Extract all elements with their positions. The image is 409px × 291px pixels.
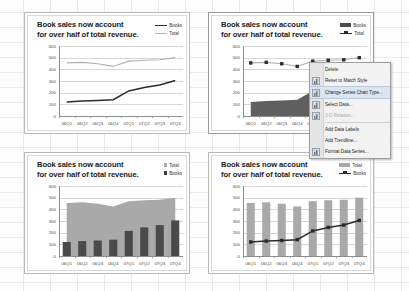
series-column-total[interactable] — [309, 201, 317, 256]
x-axis-tick-label: 07Q4 — [167, 261, 183, 266]
chart-top-right-legend[interactable]: Books Total — [340, 21, 366, 37]
y-axis-tick-label: 0 — [226, 254, 240, 259]
series-marker[interactable] — [280, 239, 283, 242]
legend-entry-total[interactable]: Total — [155, 29, 182, 37]
menu-separator — [325, 122, 390, 123]
rotation-icon — [312, 112, 320, 120]
series-column-total[interactable] — [340, 200, 348, 256]
chart-title-line1: Book sales now account — [221, 20, 339, 30]
chart-bottom-left-plot-area[interactable]: 600500400300200100006Q106Q206Q306Q407Q10… — [59, 186, 183, 256]
chart-top-left-legend[interactable]: Books Total — [155, 21, 182, 37]
chart-title-line1: Book sales now account — [37, 160, 155, 170]
series-marker[interactable] — [280, 62, 283, 65]
x-axis-tick-label: 06Q4 — [105, 261, 121, 266]
x-axis-tick-label: 07Q3 — [152, 121, 168, 126]
context-menu-item-label: 3-D Rotation... — [325, 113, 355, 118]
legend-swatch-column-icon — [339, 163, 350, 166]
x-axis-tick-label: 06Q3 — [90, 261, 106, 266]
context-menu-item-3-d-rotation: 3-D Rotation... — [310, 110, 390, 121]
series-marker[interactable] — [265, 61, 268, 64]
context-menu-item-label: Delete — [325, 67, 338, 72]
series-column-total[interactable] — [293, 206, 301, 256]
y-axis-tick-label: 100 — [42, 102, 56, 107]
series-column-books[interactable] — [171, 220, 179, 256]
chart-bottom-left[interactable]: Book sales now account for over half of … — [24, 152, 190, 274]
y-axis-tick-label: 500 — [42, 55, 56, 60]
legend-entry-total[interactable]: Total — [340, 29, 366, 37]
x-axis-tick — [106, 116, 107, 118]
chart-top-right-title: Book sales now account for over half of … — [221, 20, 339, 39]
x-axis-tick-label: 06Q3 — [274, 261, 290, 266]
series-column-books[interactable] — [94, 240, 102, 256]
legend-label: Total — [169, 31, 179, 36]
chart-top-left[interactable]: Book sales now account for over half of … — [24, 12, 190, 134]
series-column-books[interactable] — [140, 227, 148, 256]
series-column-books[interactable] — [78, 241, 86, 256]
series-column-total[interactable] — [247, 203, 255, 256]
legend-entry-total[interactable]: Total — [339, 161, 366, 169]
y-axis-tick-label: 100 — [42, 242, 56, 247]
y-axis-tick-label: 600 — [226, 184, 240, 189]
series-marker[interactable] — [296, 65, 299, 68]
chart-title-line2: for over half of total revenue. — [37, 30, 155, 40]
series-marker[interactable] — [358, 56, 361, 59]
series-column-total[interactable] — [278, 204, 286, 256]
x-axis-tick — [59, 256, 60, 258]
x-axis-tick-label: 07Q1 — [121, 121, 137, 126]
series-marker[interactable] — [249, 240, 252, 243]
chart-bottom-right-legend[interactable]: Total Books — [339, 161, 366, 177]
chart-top-left-plot-area[interactable]: 600500400300200100006Q106Q206Q306Q407Q10… — [59, 46, 183, 116]
legend-entry-books[interactable]: Books — [340, 21, 366, 29]
context-menu-item-reset-to-match-style[interactable]: Reset to Match Style — [310, 75, 390, 86]
legend-label: Books — [353, 23, 366, 28]
x-axis-tick — [243, 256, 244, 258]
legend-entry-books[interactable]: Books — [339, 169, 366, 177]
x-axis-tick-label: 07Q2 — [320, 261, 336, 266]
chart-title-line2: for over half of total revenue. — [37, 170, 155, 180]
series-marker[interactable] — [342, 58, 345, 61]
chart-bottom-left-legend[interactable]: Total Books — [164, 161, 182, 177]
series-line-total[interactable] — [67, 58, 176, 67]
context-menu-item-add-trendline[interactable]: Add Trendline... — [310, 135, 390, 146]
context-menu-item-change-series-chart-type[interactable]: Change Series Chart Type... — [310, 86, 390, 99]
legend-entry-books[interactable]: Books — [164, 169, 182, 177]
y-axis-tick-label: 200 — [42, 230, 56, 235]
chart-bottom-right[interactable]: Book sales now account for over half of … — [208, 152, 374, 274]
legend-entry-books[interactable]: Books — [155, 21, 182, 29]
series-column-books[interactable] — [109, 240, 117, 256]
y-axis-tick-label: 400 — [226, 207, 240, 212]
x-axis-tick — [259, 116, 260, 118]
series-column-books[interactable] — [63, 242, 71, 256]
legend-entry-total[interactable]: Total — [164, 161, 182, 169]
context-menu-item-label: Reset to Match Style — [325, 78, 367, 83]
x-axis-tick-label: 06Q4 — [105, 121, 121, 126]
x-axis-tick-label: 07Q4 — [167, 121, 183, 126]
legend-swatch-line-marker-icon — [340, 31, 352, 35]
x-axis-tick-label: 06Q1 — [243, 121, 259, 126]
context-menu[interactable]: DeleteReset to Match StyleChange Series … — [309, 62, 391, 159]
context-menu-item-delete[interactable]: Delete — [310, 64, 390, 75]
series-marker[interactable] — [342, 223, 345, 226]
x-axis-tick-label: 07Q3 — [336, 261, 352, 266]
series-line-books[interactable] — [67, 80, 176, 102]
chart-title-line2: for over half of total revenue. — [221, 30, 339, 40]
context-menu-item-select-data[interactable]: Select Data... — [310, 99, 390, 110]
series-marker[interactable] — [296, 238, 299, 241]
series-column-books[interactable] — [125, 231, 133, 256]
series-column-books[interactable] — [156, 225, 164, 256]
context-menu-item-add-data-labels[interactable]: Add Data Labels — [310, 124, 390, 135]
y-axis-tick-label: 100 — [226, 102, 240, 107]
x-axis-tick — [152, 116, 153, 118]
x-axis-tick — [137, 256, 138, 258]
series-marker[interactable] — [265, 239, 268, 242]
context-menu-item-format-data-series[interactable]: Format Data Series... — [310, 146, 390, 157]
series-marker[interactable] — [358, 219, 361, 222]
series-marker[interactable] — [311, 229, 314, 232]
series-column-total[interactable] — [262, 202, 270, 256]
x-axis-tick — [90, 116, 91, 118]
series-marker[interactable] — [327, 226, 330, 229]
x-axis-tick — [168, 256, 169, 258]
series-column-total[interactable] — [355, 198, 363, 256]
series-marker[interactable] — [249, 61, 252, 64]
chart-bottom-right-plot-area[interactable]: 600500400300200100006Q106Q206Q306Q407Q10… — [243, 186, 367, 256]
